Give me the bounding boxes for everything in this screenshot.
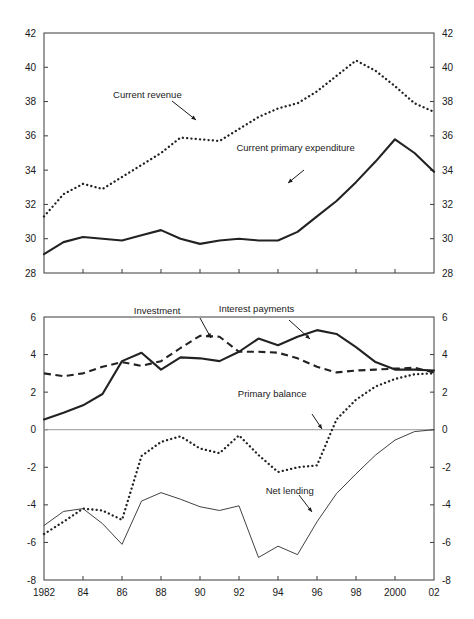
- y-tick-label-left: 0: [30, 424, 36, 435]
- y-tick-label-right: 28: [442, 268, 454, 279]
- y-tick-label-right: 0: [442, 424, 448, 435]
- x-tick-label: 88: [155, 587, 167, 598]
- y-tick-label-right: -2: [442, 462, 451, 473]
- y-tick-label-left: 2: [30, 387, 36, 398]
- y-tick-label-right: 6: [442, 312, 448, 323]
- series-line-investment: [44, 336, 434, 376]
- y-tick-label-left: 6: [30, 312, 36, 323]
- y-tick-label-left: 4: [30, 349, 36, 360]
- y-tick-label-left: -6: [27, 537, 36, 548]
- chart-panel-bottom: -8-8-6-6-4-4-2-200224466 198284868890929…: [0, 295, 474, 619]
- annotation-label-current-primary-expenditure: Current primary expenditure: [236, 142, 354, 153]
- y-tick-label-right: 42: [442, 28, 454, 39]
- y-tick-label-right: -4: [442, 499, 451, 510]
- y-tick-label-right: -8: [442, 575, 451, 586]
- y-tick-label-left: 42: [25, 28, 37, 39]
- annotation-group-bottom: 19828486889092949698200002InvestmentInte…: [33, 303, 440, 598]
- chart-svg-bottom: -8-8-6-6-4-4-2-200224466 198284868890929…: [0, 295, 474, 619]
- annotation-group-top: Current revenueCurrent primary expenditu…: [113, 89, 355, 183]
- x-tick-label: 98: [350, 587, 362, 598]
- annotation-label-interest-payments: Interest payments: [219, 303, 295, 314]
- y-tick-label-right: 36: [442, 130, 454, 141]
- figure-root: 28283030323234343636383840404242 Current…: [0, 0, 474, 619]
- chart-svg-top: 28283030323234343636383840404242 Current…: [0, 0, 474, 300]
- chart-panel-top: 28283030323234343636383840404242 Current…: [0, 0, 474, 300]
- series-group-bottom: [44, 330, 434, 557]
- series-line-current-revenue: [44, 60, 434, 216]
- plot-frame: [44, 317, 434, 580]
- y-tick-label-left: 30: [25, 233, 37, 244]
- y-tick-label-left: -8: [27, 575, 36, 586]
- annotation-label-investment: Investment: [134, 305, 181, 316]
- x-tick-label: 84: [77, 587, 89, 598]
- y-tick-label-left: 34: [25, 165, 37, 176]
- annotation-leader: [172, 101, 196, 120]
- x-tick-label: 02: [428, 587, 440, 598]
- annotation-label-net-lending: Net lending: [266, 485, 314, 496]
- y-tick-label-left: 32: [25, 199, 37, 210]
- y-tick-label-left: 28: [25, 268, 37, 279]
- x-tick-label: 86: [116, 587, 128, 598]
- y-tick-label-left: -4: [27, 499, 36, 510]
- series-line-current-primary-expenditure: [44, 139, 434, 254]
- y-tick-label-left: 38: [25, 96, 37, 107]
- y-tick-label-left: 40: [25, 62, 37, 73]
- x-tick-label: 96: [311, 587, 323, 598]
- x-tick-label: 94: [272, 587, 284, 598]
- y-tick-label-right: 38: [442, 96, 454, 107]
- y-tick-label-right: 34: [442, 165, 454, 176]
- annotation-label-current-revenue: Current revenue: [113, 89, 182, 100]
- y-tick-label-right: 32: [442, 199, 454, 210]
- x-tick-label: 92: [233, 587, 245, 598]
- series-line-net-lending: [44, 430, 434, 558]
- y-tick-label-left: -2: [27, 462, 36, 473]
- annotation-label-primary-balance: Primary balance: [238, 388, 307, 399]
- y-tick-label-right: 30: [442, 233, 454, 244]
- y-tick-label-right: 4: [442, 349, 448, 360]
- y-tick-label-right: -6: [442, 537, 451, 548]
- x-tick-label: 2000: [384, 587, 407, 598]
- annotation-arrowhead: [318, 424, 322, 429]
- y-tick-label-right: 2: [442, 387, 448, 398]
- x-tick-label: 90: [194, 587, 206, 598]
- y-tick-label-right: 40: [442, 62, 454, 73]
- series-group-top: [44, 60, 434, 254]
- x-tick-label: 1982: [33, 587, 56, 598]
- series-line-interest-payments: [44, 330, 434, 419]
- y-tick-label-left: 36: [25, 130, 37, 141]
